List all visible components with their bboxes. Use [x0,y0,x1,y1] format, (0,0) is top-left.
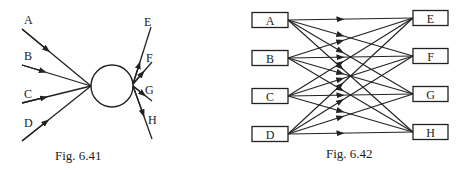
node-label-f: F [427,50,434,64]
node-label-e: E [144,15,151,29]
edge-c-e [288,18,413,96]
caption-fig-6-42: Fig. 6.42 [326,146,373,162]
node-label-b: B [24,49,32,63]
diagram-canvas: A B C D E F G H ABCDEFGH [0,0,472,170]
edge-b-e [288,18,413,58]
edge-a-e [288,18,413,20]
figure-6-42: ABCDEFGH [252,11,448,142]
vertex-circle [91,65,133,107]
figure-6-41: A B C D E F G H [22,13,157,141]
node-label-a: A [266,14,275,28]
edge-d-h [288,132,413,134]
edge-d-e [288,18,413,134]
node-label-a: A [24,13,33,27]
edge-d-g [288,94,413,134]
node-label-b: B [266,52,274,66]
node-label-h: H [148,113,157,127]
node-label-c: C [24,87,32,101]
node-label-e: E [427,12,434,26]
node-label-c: C [266,90,274,104]
edge-d-f [288,56,413,134]
node-label-d: D [24,116,33,130]
node-label-d: D [266,128,275,142]
node-label-g: G [145,83,154,97]
node-label-g: G [426,88,435,102]
caption-fig-6-41: Fig. 6.41 [55,148,102,164]
node-label-f: F [146,51,153,65]
node-label-h: H [426,126,435,140]
